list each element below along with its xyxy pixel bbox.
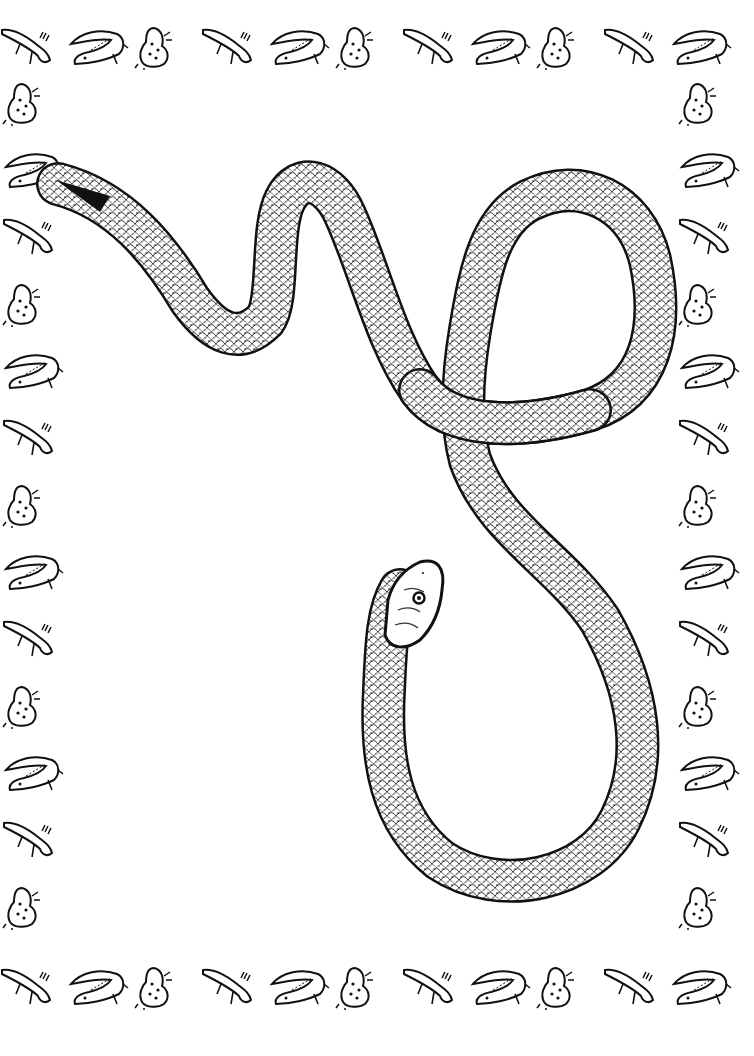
snake-body <box>56 180 655 881</box>
coloring-page <box>0 0 754 1056</box>
snake-nostril <box>422 572 424 574</box>
snake-illustration <box>0 0 754 1056</box>
